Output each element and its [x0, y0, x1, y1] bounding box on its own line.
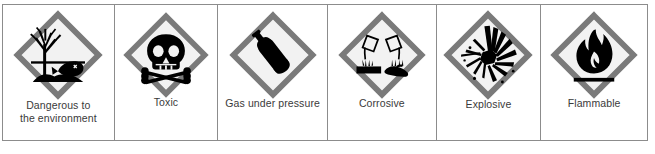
- pictogram-cell-gas-under-pressure: Gas under pressure: [218, 5, 328, 140]
- pictogram-caption: Dangerous to the environment: [17, 99, 100, 125]
- pictogram-cell-flammable: Flammable: [541, 5, 647, 140]
- toxic-pictogram: [123, 12, 209, 98]
- pictogram-caption: Flammable: [565, 97, 624, 110]
- corrosive-pictogram: [338, 11, 426, 99]
- pictogram-caption: Toxic: [151, 96, 181, 109]
- pictogram-cell-dangerous-to-the-environment: Dangerous to the environment: [3, 5, 115, 140]
- pictogram-caption: Explosive: [463, 98, 515, 111]
- explosive-pictogram: [443, 10, 533, 100]
- pictogram-caption: Corrosive: [356, 97, 408, 110]
- pictogram-cell-explosive: Explosive: [437, 5, 542, 140]
- pictogram-cell-corrosive: Corrosive: [328, 5, 437, 140]
- gas-under-pressure-pictogram: [229, 11, 317, 99]
- dangerous-to-the-environment-pictogram: [13, 10, 103, 100]
- pictogram-caption: Gas under pressure: [222, 97, 323, 110]
- hazard-pictogram-table: Dangerous to the environment: [2, 4, 648, 141]
- pictogram-cell-toxic: Toxic: [115, 5, 219, 140]
- flammable-pictogram: [550, 11, 638, 99]
